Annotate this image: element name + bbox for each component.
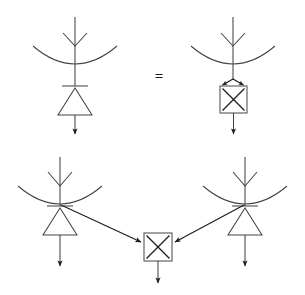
diagonal-arrow-to-xbox [175, 205, 244, 242]
split-arrow-left [223, 79, 234, 85]
diagram-svg: = [0, 0, 305, 295]
diagonal-arrow-to-xbox [61, 205, 141, 242]
diode-triangle [228, 208, 262, 235]
diode-triangle [58, 88, 92, 115]
equals-sign: = [155, 68, 164, 84]
figure-canvas: = [0, 0, 305, 295]
diode-triangle [43, 208, 77, 235]
xbox-vertex-top-right [191, 17, 275, 134]
diode-vertex-bottom-left [18, 157, 141, 266]
split-arrow-right [233, 79, 244, 85]
diode-vertex-top-left [33, 17, 117, 134]
diode-vertex-bottom-right [175, 157, 287, 266]
shared-x-box-group [144, 233, 172, 283]
